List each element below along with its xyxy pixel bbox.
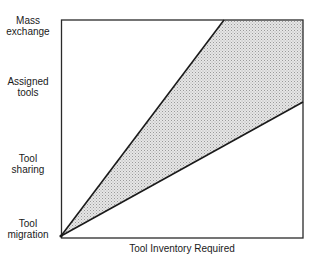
label-line: exchange [0,26,58,37]
label-line: migration [0,229,58,240]
label-line: tools [0,87,58,98]
label-line: sharing [0,164,58,175]
ylabel-tool-sharing: Tool sharing [0,153,58,175]
x-axis-label: Tool Inventory Required [62,243,302,254]
label-line: Mass [0,15,58,26]
label-line: Tool [0,218,58,229]
label-line: Assigned [0,76,58,87]
ylabel-mass-exchange: Mass exchange [0,15,58,37]
origin-point [59,234,62,237]
ylabel-assigned-tools: Assigned tools [0,76,58,98]
ylabel-tool-migration: Tool migration [0,218,58,240]
label-line: Tool [0,153,58,164]
shaded-region [61,20,303,236]
